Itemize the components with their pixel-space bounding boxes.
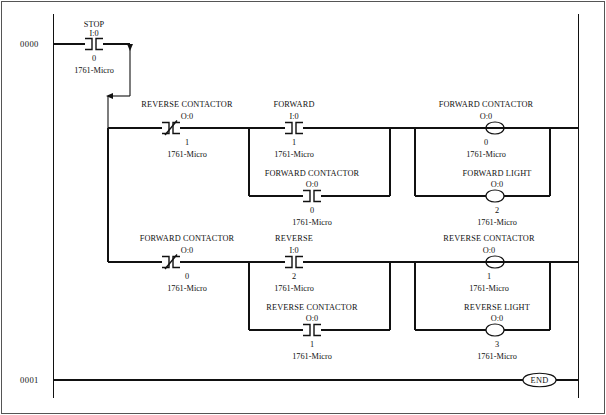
label-fwdlight-coil-name: FORWARD LIGHT [462,169,531,178]
label-forward-no-address: I:0 [289,112,298,121]
contact-forward-no[interactable] [285,123,303,134]
label-fwdcontactor-coil-address: O:0 [480,112,492,121]
label-fwdlight-coil-bit: 2 [495,206,499,215]
label-fwdlight-coil-address: O:0 [491,180,503,189]
label-forward-no-device: 1761-Micro [274,150,314,159]
label-revcontactor-nc-address: O:0 [181,112,193,121]
label-fwdcontactor-seal-name: FORWARD CONTACTOR [265,169,360,178]
label-revlight-coil-device: 1761-Micro [477,352,517,361]
branch-reverse-sealin: REVERSE CONTACTOR O:0 1 1761-Micro [249,262,390,361]
coil-reverse-light[interactable] [486,324,504,336]
label-revcontactor-nc-bit: 1 [185,138,189,147]
rung-link-wire [106,44,133,128]
label-reverse-no-name: REVERSE [275,234,313,243]
label-fwdcontactor-nc-name: FORWARD CONTACTOR [140,234,235,243]
label-fwdcontactor-coil-name: FORWARD CONTACTOR [439,100,534,109]
label-fwdcontactor-coil-device: 1761-Micro [466,150,506,159]
branch-reverse-light: REVERSE LIGHT O:0 3 1761-Micro [415,262,550,361]
label-fwdcontactor-seal-bit: 0 [310,206,314,215]
label-revcontactor-seal-address: O:0 [306,314,318,323]
label-revcontactor-coil-bit: 1 [487,272,491,281]
contact-forward-contactor-nc[interactable] [162,255,180,270]
rung-number-0001: 0001 [20,375,39,385]
label-fwdcontactor-seal-address: O:0 [306,180,318,189]
contact-reverse-contactor-sealin[interactable] [303,325,321,336]
label-end-coil: END [531,376,549,385]
label-revcontactor-seal-device: 1761-Micro [292,352,332,361]
label-fwdlight-coil-device: 1761-Micro [477,218,517,227]
rung-number-0000: 0000 [20,39,39,49]
label-revcontactor-coil-address: O:0 [483,246,495,255]
contact-stop[interactable] [85,39,103,50]
rung-0001: 0001 END [20,373,579,387]
label-forward-no-bit: 1 [292,138,296,147]
label-revlight-coil-bit: 3 [495,340,499,349]
label-fwdcontactor-nc-bit: 0 [185,272,189,281]
ladder-logic-svg: 0000 STOP I:0 0 1761-Micro [0,0,606,415]
label-revlight-coil-name: REVERSE LIGHT [464,303,530,312]
contact-reverse-contactor-nc[interactable] [162,121,180,136]
label-stop-address: I:0 [89,29,98,38]
rung-forward: REVERSE CONTACTOR O:0 1 1761-Micro FORWA… [108,100,579,159]
contact-forward-contactor-sealin[interactable] [303,191,321,202]
label-fwdcontactor-seal-device: 1761-Micro [292,218,332,227]
label-fwdcontactor-nc-device: 1761-Micro [167,284,207,293]
label-revcontactor-nc-device: 1761-Micro [167,150,207,159]
label-stop-device: 1761-Micro [74,66,114,75]
label-revcontactor-coil-device: 1761-Micro [469,284,509,293]
rung-reverse: FORWARD CONTACTOR O:0 0 1761-Micro REVER… [108,234,579,293]
label-fwdcontactor-nc-address: O:0 [181,246,193,255]
branch-forward-light: FORWARD LIGHT O:0 2 1761-Micro [415,128,550,227]
label-stop-bit: 0 [92,54,96,63]
label-fwdcontactor-coil-bit: 0 [484,138,488,147]
label-reverse-no-address: I:0 [289,246,298,255]
ladder-diagram-canvas: 0000 STOP I:0 0 1761-Micro [0,0,606,415]
branch-forward-sealin: FORWARD CONTACTOR O:0 0 1761-Micro [249,128,390,227]
coil-forward-light[interactable] [486,190,504,202]
label-reverse-no-device: 1761-Micro [274,284,314,293]
label-revcontactor-seal-bit: 1 [310,340,314,349]
label-revcontactor-nc-name: REVERSE CONTACTOR [141,100,233,109]
contact-reverse-no[interactable] [285,257,303,268]
power-rails [54,14,579,398]
label-revcontactor-coil-name: REVERSE CONTACTOR [443,234,535,243]
label-revcontactor-seal-name: REVERSE CONTACTOR [266,303,358,312]
rung-0000: 0000 STOP I:0 0 1761-Micro [20,20,130,75]
label-stop-name: STOP [84,20,105,29]
label-reverse-no-bit: 2 [292,272,296,281]
label-revlight-coil-address: O:0 [491,314,503,323]
label-forward-no-name: FORWARD [273,100,314,109]
